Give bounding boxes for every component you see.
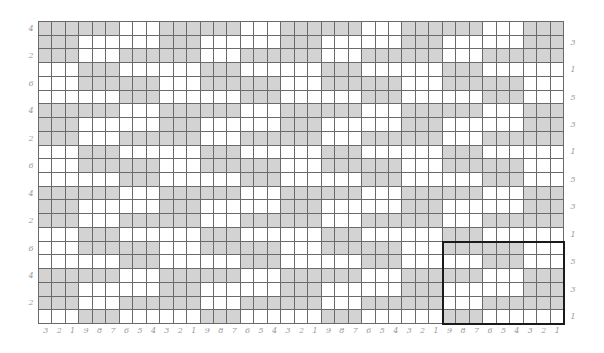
chart-cell (376, 91, 389, 105)
chart-cell (214, 187, 227, 201)
chart-cell (456, 269, 469, 283)
chart-cell (133, 77, 146, 91)
chart-cell (322, 173, 335, 187)
chart-cell (483, 77, 496, 91)
chart-cell (510, 22, 523, 36)
chart-cell (39, 132, 52, 146)
chart-cell (39, 146, 52, 160)
chart-cell (214, 228, 227, 242)
column-label: 2 (295, 326, 309, 336)
chart-cell (106, 187, 119, 201)
chart-cell (227, 297, 240, 311)
chart-cell (254, 132, 267, 146)
chart-cell (120, 22, 133, 36)
chart-cell (376, 104, 389, 118)
chart-cell (254, 173, 267, 187)
chart-cell (227, 255, 240, 269)
chart-cell (201, 310, 214, 324)
chart-cell (160, 214, 173, 228)
chart-cell (241, 283, 254, 297)
chart-cell (510, 228, 523, 242)
chart-cell (551, 297, 564, 311)
chart-cell (187, 269, 200, 283)
chart-cell (308, 63, 321, 77)
chart-cell (227, 214, 240, 228)
chart-cell (322, 22, 335, 36)
chart-cell (443, 63, 456, 77)
chart-cell (335, 77, 348, 91)
chart-cell (187, 36, 200, 50)
chart-cell (201, 36, 214, 50)
chart-cell (147, 310, 160, 324)
chart-cell (308, 91, 321, 105)
column-label: 5 (496, 326, 510, 336)
chart-cell (93, 63, 106, 77)
chart-cell (402, 283, 415, 297)
chart-cell (537, 63, 550, 77)
chart-cell (308, 49, 321, 63)
chart-cell (308, 104, 321, 118)
chart-cell (187, 187, 200, 201)
chart-cell (456, 22, 469, 36)
chart-cell (510, 77, 523, 91)
chart-cell (174, 146, 187, 160)
chart-cell (201, 77, 214, 91)
chart-cell (429, 91, 442, 105)
chart-cell (524, 146, 537, 160)
chart-cell (416, 159, 429, 173)
chart-cell (187, 104, 200, 118)
chart-cell (308, 159, 321, 173)
column-label: 8 (335, 326, 349, 336)
right-row-label: 1 (566, 65, 580, 75)
chart-cell (510, 104, 523, 118)
chart-cell (349, 269, 362, 283)
chart-cell (295, 91, 308, 105)
chart-cell (402, 146, 415, 160)
chart-cell (470, 118, 483, 132)
right-row-label: 3 (566, 285, 580, 295)
right-row-label: 1 (566, 230, 580, 240)
chart-cell (295, 310, 308, 324)
chart-cell (281, 214, 294, 228)
column-label: 6 (120, 326, 134, 336)
chart-cell (335, 91, 348, 105)
chart-cell (52, 214, 65, 228)
chart-cell (281, 187, 294, 201)
chart-cell (254, 310, 267, 324)
chart-cell (174, 255, 187, 269)
chart-cell (147, 173, 160, 187)
chart-cell (322, 297, 335, 311)
chart-cell (537, 118, 550, 132)
chart-cell (537, 91, 550, 105)
chart-cell (39, 159, 52, 173)
chart-cell (456, 173, 469, 187)
left-row-label: 4 (24, 106, 38, 116)
chart-cell (268, 173, 281, 187)
chart-cell (295, 104, 308, 118)
chart-cell (160, 132, 173, 146)
chart-cell (106, 242, 119, 256)
chart-cell (389, 283, 402, 297)
chart-cell (227, 242, 240, 256)
column-label: 2 (416, 326, 430, 336)
chart-cell (349, 310, 362, 324)
chart-cell (133, 118, 146, 132)
chart-cell (174, 297, 187, 311)
chart-cell (308, 200, 321, 214)
chart-cell (52, 283, 65, 297)
chart-cell (389, 146, 402, 160)
chart-cell (93, 200, 106, 214)
chart-cell (537, 146, 550, 160)
chart-cell (52, 255, 65, 269)
chart-cell (133, 91, 146, 105)
chart-cell (93, 77, 106, 91)
chart-cell (429, 214, 442, 228)
chart-cell (389, 132, 402, 146)
chart-cell (551, 146, 564, 160)
chart-cell (187, 255, 200, 269)
chart-cell (537, 310, 550, 324)
chart-cell (416, 146, 429, 160)
chart-cell (510, 49, 523, 63)
chart-cell (551, 91, 564, 105)
chart-cell (79, 187, 92, 201)
